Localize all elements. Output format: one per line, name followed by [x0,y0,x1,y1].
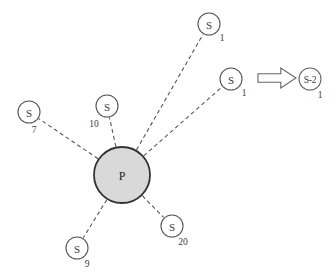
result-node-group[interactable]: S-21 [299,68,323,100]
arrow-group [258,68,296,88]
center-node-label: P [119,169,126,183]
transform-arrow [258,68,296,88]
star-topology-diagram: P S1S1S7S10S9S20 S-21 [0,0,336,279]
satellite-node-subscript: 1 [242,88,247,98]
satellite-node-9[interactable]: S9 [66,237,90,269]
satellite-node-10[interactable]: S10 [89,95,118,129]
satellite-node-subscript: 7 [32,125,37,135]
edge-upmid [110,118,116,147]
satellite-node-group: S1S1S7S10S9S20 [18,13,247,269]
result-node-subscript: 1 [318,90,323,100]
edge-group [39,34,222,237]
satellite-node-subscript: 1 [220,33,225,43]
satellite-node-label: S [104,101,110,113]
satellite-node-subscript: 10 [89,119,99,129]
satellite-node-subscript: 20 [178,237,188,247]
satellite-node-label: S [74,243,80,255]
edge-botleft [83,200,106,238]
satellite-node-label: S [206,19,212,31]
result-node-label: S-2 [304,75,317,85]
satellite-node-1[interactable]: S1 [220,68,247,98]
satellite-node-label: S [26,107,32,119]
satellite-node-label: S [169,221,175,233]
edge-botright [142,196,163,218]
satellite-node-subscript: 9 [85,259,90,269]
edge-top [136,34,203,149]
satellite-node-20[interactable]: S20 [161,215,188,247]
satellite-node-label: S [228,74,234,86]
satellite-node-1[interactable]: S1 [198,13,225,43]
edge-right [144,87,222,156]
satellite-node-7[interactable]: S7 [18,101,40,135]
diagram-canvas: P S1S1S7S10S9S20 S-21 [0,0,336,279]
center-node-group[interactable]: P [94,147,150,203]
